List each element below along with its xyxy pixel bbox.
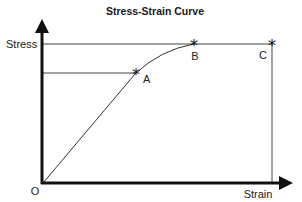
stress-strain-curve — [43, 44, 194, 183]
y-axis-label: Stress — [6, 38, 38, 50]
point-c-label: C — [259, 49, 267, 61]
point-b-label: B — [191, 50, 198, 62]
point-c-marker: * — [268, 36, 276, 55]
stress-strain-diagram: Stress-Strain Curve * * * A B C Stress S… — [0, 0, 302, 202]
point-a-marker: * — [132, 65, 140, 84]
x-axis-arrow-icon — [279, 176, 293, 190]
point-a-label: A — [143, 73, 151, 85]
chart-title: Stress-Strain Curve — [106, 5, 204, 17]
y-axis-arrow-icon — [35, 19, 49, 33]
origin-label: O — [31, 185, 40, 197]
x-axis-label: Strain — [244, 188, 273, 200]
